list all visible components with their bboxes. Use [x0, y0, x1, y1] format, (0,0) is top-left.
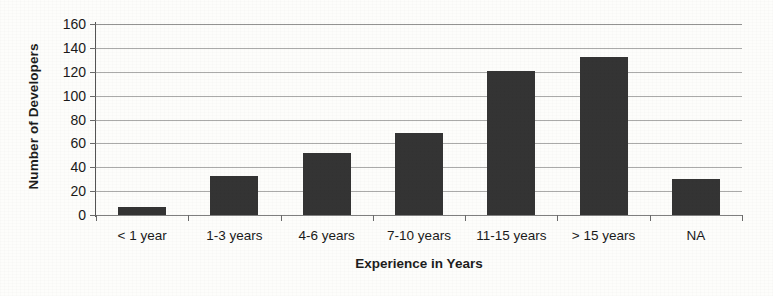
y-axis-tickmark — [90, 167, 96, 168]
x-axis-tick-labels: < 1 year1-3 years4-6 years7-10 years11-1… — [96, 228, 742, 254]
y-axis-tickmark — [90, 72, 96, 73]
bars-layer — [96, 24, 742, 215]
y-axis-tick-label: 160 — [46, 17, 86, 31]
bar-chart-figure: Number of Developers 1601401201008060402… — [0, 0, 773, 296]
gridline — [96, 215, 742, 216]
y-axis-tick-label: 120 — [46, 65, 86, 79]
x-axis-tick-label: 1-3 years — [206, 228, 262, 243]
x-axis-tickmark — [465, 215, 466, 221]
bar — [210, 176, 258, 215]
y-axis-tickmark — [90, 24, 96, 25]
y-axis-tick-label: 100 — [46, 89, 86, 103]
x-axis-tick-label: 7-10 years — [387, 228, 451, 243]
bar — [487, 71, 535, 215]
bar — [303, 153, 351, 215]
x-axis-title: Experience in Years — [96, 256, 742, 271]
bar — [672, 179, 720, 215]
y-axis-tickmark — [90, 96, 96, 97]
x-axis-tickmark — [188, 215, 189, 221]
y-axis-tick-label: 20 — [46, 184, 86, 198]
x-axis-tickmark — [373, 215, 374, 221]
bar — [118, 207, 166, 215]
bar — [580, 57, 628, 215]
y-axis-tickmark — [90, 48, 96, 49]
y-axis-tick-label: 80 — [46, 113, 86, 127]
x-axis-tickmark — [650, 215, 651, 221]
x-axis-tickmark — [742, 215, 743, 221]
y-axis-tickmark — [90, 143, 96, 144]
y-axis-tick-label: 140 — [46, 41, 86, 55]
y-axis-tick-label: 60 — [46, 136, 86, 150]
y-axis-tickmark — [90, 120, 96, 121]
x-axis-tick-label: NA — [686, 228, 705, 243]
y-axis-title: Number of Developers — [20, 14, 46, 218]
x-axis-tickmark — [281, 215, 282, 221]
y-axis-tick-label: 0 — [46, 208, 86, 222]
plot-area — [96, 24, 742, 215]
x-axis-tick-label: 11-15 years — [476, 228, 546, 243]
y-axis-tick-label: 40 — [46, 160, 86, 174]
x-axis-tick-label: 4-6 years — [299, 228, 355, 243]
y-axis-tickmark — [90, 191, 96, 192]
bar — [395, 133, 443, 215]
y-axis-tick-labels: 160140120100806040200 — [48, 14, 90, 218]
x-axis-tick-label: > 15 years — [572, 228, 635, 243]
y-axis-title-label: Number of Developers — [26, 43, 41, 189]
x-axis-tickmark — [96, 215, 97, 221]
x-axis-tickmark — [557, 215, 558, 221]
x-axis-tick-label: < 1 year — [118, 228, 167, 243]
